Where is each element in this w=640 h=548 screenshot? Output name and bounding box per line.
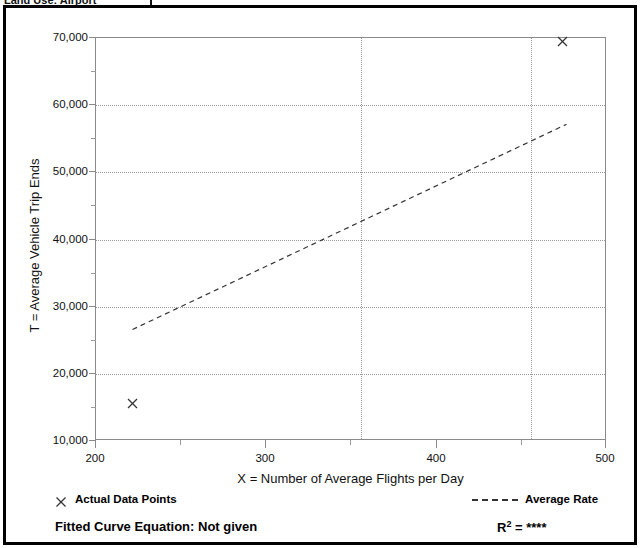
x-tick-500	[605, 440, 606, 448]
r-squared-value: ****	[526, 520, 546, 535]
x-tick-250	[180, 440, 181, 445]
y-tick-label: 60,000	[30, 98, 88, 110]
y-tick-45000	[91, 205, 96, 206]
r-squared-annotation: R2 = ****	[497, 519, 546, 535]
x-tick-label: 200	[85, 452, 104, 464]
y-tick-25000	[91, 340, 96, 341]
y-tick-65000	[91, 71, 96, 72]
y-tick-35000	[91, 273, 96, 274]
y-axis-title: T = Average Vehicle Trip Ends	[27, 126, 42, 366]
dashed-line-icon	[472, 499, 518, 501]
fitted-curve-equation: Fitted Curve Equation: Not given	[55, 519, 257, 534]
y-tick-15000	[91, 407, 96, 408]
y-tick-label: 20,000	[30, 367, 88, 379]
y-tick-20000	[89, 373, 96, 374]
chart-figure: 70,000 60,000 50,000 40,000 30,000 20,00…	[0, 0, 640, 548]
y-tick-55000	[91, 138, 96, 139]
y-tick-40000	[89, 239, 96, 240]
average-rate-trendline	[95, 37, 606, 440]
trendline-segment	[133, 124, 567, 329]
x-tick-label: 300	[255, 452, 274, 464]
data-point-marker	[127, 398, 138, 409]
y-tick-50000	[89, 171, 96, 172]
x-axis-title: X = Number of Average Flights per Day	[95, 471, 606, 486]
y-tick-60000	[89, 104, 96, 105]
data-point-marker	[557, 36, 568, 47]
r-squared-equals: =	[511, 520, 526, 535]
x-tick-300	[265, 440, 266, 448]
x-tick-400	[436, 440, 437, 448]
y-tick-label: 70,000	[30, 31, 88, 43]
x-tick-200	[95, 440, 96, 448]
legend-label-average-rate: Average Rate	[525, 493, 598, 505]
x-tick-label: 400	[426, 452, 445, 464]
x-tick-450	[521, 440, 522, 445]
chart-footer: Fitted Curve Equation: Not given R2 = **…	[0, 519, 640, 543]
y-tick-30000	[89, 306, 96, 307]
legend-label-actual-data-points: Actual Data Points	[75, 493, 177, 505]
x-tick-label: 500	[595, 452, 614, 464]
r-squared-symbol: R	[497, 520, 506, 535]
x-marker-icon	[55, 494, 67, 506]
y-tick-70000	[89, 37, 96, 38]
x-tick-350	[350, 440, 351, 445]
y-tick-label: 10,000	[30, 434, 88, 446]
chart-legend: Actual Data Points Average Rate	[0, 492, 640, 512]
